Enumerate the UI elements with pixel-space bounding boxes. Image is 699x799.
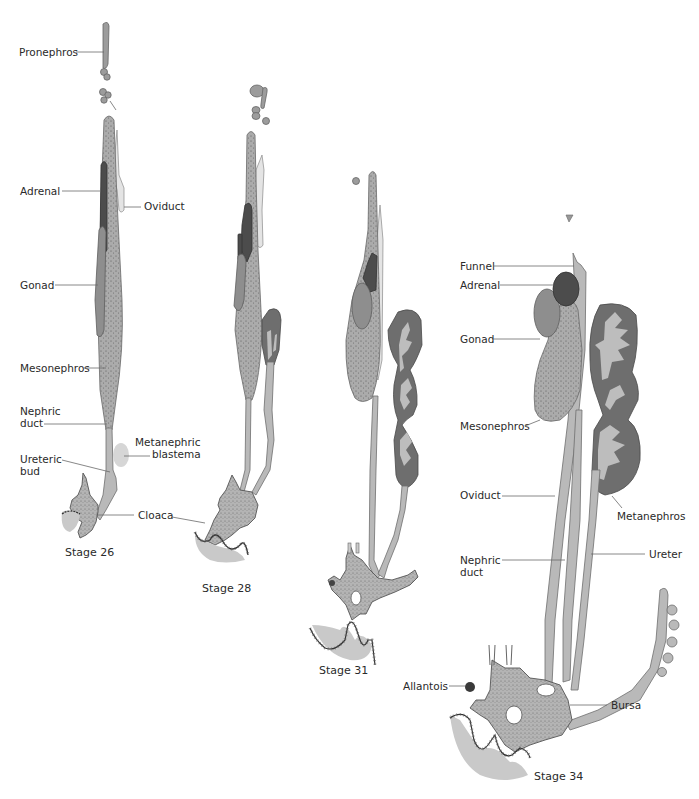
label-adrenal: Adrenal — [460, 279, 500, 291]
label-nephric-duct-line1: Nephric — [460, 554, 501, 566]
label-nephric-duct-line2: duct — [460, 566, 483, 578]
gonad-shape — [95, 226, 106, 336]
metanephros-shape — [262, 309, 281, 365]
label-bursa: Bursa — [611, 699, 641, 711]
adrenal-shape — [553, 272, 579, 306]
urogenital-development-diagram: Pronephros Adrenal Oviduct Gonad Mesonep… — [0, 0, 699, 799]
pronephros-structure — [100, 22, 117, 110]
stage-26-label: Stage 26 — [65, 546, 114, 559]
metanephric-blastema-shape — [113, 443, 129, 467]
stage-34-label: Stage 34 — [534, 770, 583, 783]
nephric-duct-shape — [96, 428, 117, 520]
stage-31-label: Stage 31 — [319, 664, 368, 677]
label-metanephric-blastema-line2: blastema — [152, 448, 201, 460]
stage-31-group — [310, 172, 422, 666]
stage-26-group — [62, 22, 129, 538]
label-metanephric-blastema-line1: Metanephric — [135, 436, 201, 448]
label-gonad: Gonad — [20, 279, 54, 291]
adrenal-shape — [241, 203, 252, 262]
label-ureter: Ureter — [649, 548, 683, 560]
label-cloaca: Cloaca — [138, 509, 173, 521]
label-nephric-duct-line2: duct — [20, 417, 43, 429]
label-funnel: Funnel — [460, 260, 495, 272]
label-pronephros: Pronephros — [19, 46, 78, 58]
stage-28-group — [195, 85, 281, 563]
label-ureteric-bud-line2: bud — [20, 465, 40, 477]
label-nephric-duct-line1: Nephric — [20, 405, 61, 417]
label-mesonephros: Mesonephros — [20, 362, 90, 374]
cloaca-shape — [470, 660, 572, 752]
label-gonad: Gonad — [460, 333, 494, 345]
label-oviduct: Oviduct — [460, 489, 501, 501]
label-ureteric-bud-line1: Ureteric — [20, 453, 62, 465]
label-oviduct: Oviduct — [144, 200, 185, 212]
label-allantois: Allantois — [403, 680, 448, 692]
label-metanephros: Metanephros — [617, 510, 686, 522]
label-mesonephros: Mesonephros — [460, 420, 530, 432]
label-adrenal: Adrenal — [20, 185, 60, 197]
stage-28-label: Stage 28 — [202, 582, 251, 595]
